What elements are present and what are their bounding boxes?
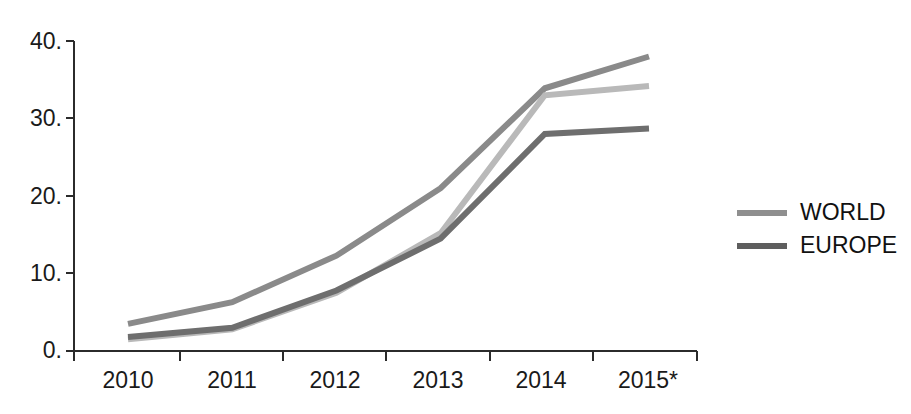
series-line-upper: [128, 57, 649, 324]
y-tick-label-30: 30.: [30, 105, 62, 131]
y-axis-labels: 40. 30. 20. 10. 0.: [30, 28, 62, 363]
x-axis-ticks: [74, 351, 697, 361]
x-tick-label-2014: 2014: [515, 367, 566, 393]
x-tick-label-2010: 2010: [102, 367, 153, 393]
legend-label-world: WORLD: [800, 199, 886, 225]
chart-screenshot: 40. 30. 20. 10. 0.: [0, 0, 911, 414]
y-axis-ticks: [66, 41, 74, 351]
y-tick-label-40: 40.: [30, 28, 62, 54]
y-tick-label-0: 0.: [43, 337, 62, 363]
series-group: [128, 57, 649, 340]
x-tick-label-2011: 2011: [207, 367, 256, 393]
x-tick-label-2012: 2012: [309, 367, 360, 393]
chart-canvas: 40. 30. 20. 10. 0.: [0, 0, 911, 414]
legend: WORLD EUROPE: [737, 199, 897, 258]
line-chart: 40. 30. 20. 10. 0.: [0, 0, 911, 414]
x-tick-label-2013: 2013: [412, 367, 463, 393]
y-tick-label-20: 20.: [30, 183, 62, 209]
legend-label-europe: EUROPE: [800, 232, 897, 258]
y-tick-label-10: 10.: [30, 260, 62, 286]
x-axis-labels: 2010 2011 2012 2013 2014 2015*: [102, 367, 678, 393]
series-line-world: [128, 86, 649, 339]
x-tick-label-2015: 2015*: [618, 367, 678, 393]
